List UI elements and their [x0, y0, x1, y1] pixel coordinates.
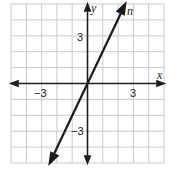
line-n-label: n	[127, 4, 133, 18]
y-axis-bottom-arrow-icon	[85, 156, 90, 163]
x-axis-label: x	[156, 68, 163, 82]
line-n-top-arrow-icon	[118, 4, 126, 14]
y-axis-top-arrow-icon	[85, 4, 90, 11]
x-axis-left-arrow-icon	[11, 81, 18, 86]
y-tick-label-3: 3	[77, 31, 83, 43]
y-axis-label: y	[90, 1, 97, 15]
x-tick-label-neg3: −3	[34, 87, 47, 99]
x-tick-label-3: 3	[130, 87, 136, 99]
line-n-bottom-arrow-icon	[50, 153, 58, 163]
coordinate-plane: y x n −3 3 3 −3	[0, 0, 174, 172]
y-tick-label-neg3: −3	[71, 125, 84, 137]
